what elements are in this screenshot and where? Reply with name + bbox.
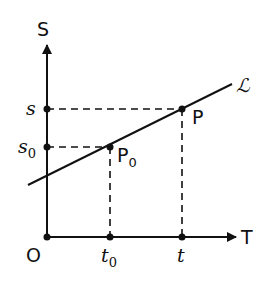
tick-s: s bbox=[26, 97, 36, 119]
s-dot bbox=[44, 106, 51, 113]
point-P0 bbox=[107, 144, 114, 151]
y-axis-label: S bbox=[37, 18, 49, 40]
label-P0: P0 bbox=[117, 144, 137, 170]
point-P bbox=[179, 106, 186, 113]
t-dot bbox=[179, 234, 186, 241]
x-axis-label: T bbox=[240, 226, 253, 248]
origin-label: O bbox=[26, 244, 41, 266]
line-L-label: ℒ bbox=[236, 74, 251, 96]
tick-t0: t0 bbox=[101, 244, 117, 270]
tick-t: t bbox=[177, 244, 185, 266]
s0-dot bbox=[44, 144, 51, 151]
origin-dot bbox=[44, 234, 51, 241]
label-P: P bbox=[192, 106, 203, 128]
diagram: S T O s s0 t0 t P0 P ℒ bbox=[0, 0, 272, 286]
tick-s0: s0 bbox=[18, 135, 36, 161]
t0-dot bbox=[107, 234, 114, 241]
